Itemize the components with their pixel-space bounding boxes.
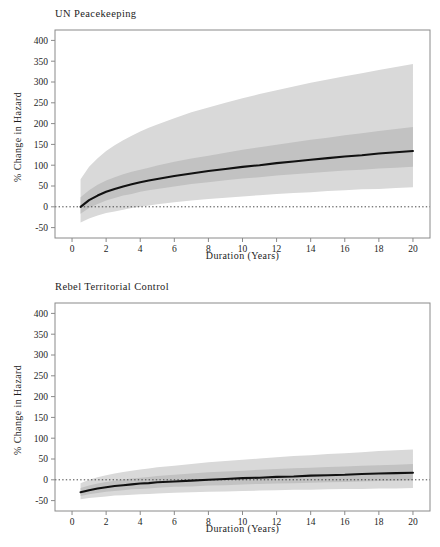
x-tick-label: 18 [374,517,384,527]
y-tick-label: 350 [34,57,49,67]
x-tick-label: 4 [138,244,143,254]
x-tick-label: 20 [408,517,418,527]
x-tick-label: 18 [374,244,384,254]
x-tick-label: 12 [272,517,282,527]
y-tick-label: 200 [34,119,49,129]
y-tick-label: -50 [35,223,48,233]
plot-area: 02468101214161820-5005010015020025030035… [0,0,440,272]
figure-container: UN Peacekeeping% Change in HazardDuratio… [0,0,440,547]
x-tick-label: 14 [306,517,316,527]
y-tick-label: 350 [34,330,49,340]
chart-panel: UN Peacekeeping% Change in HazardDuratio… [0,0,440,272]
y-tick-label: 200 [34,392,49,402]
x-tick-label: 2 [104,244,109,254]
y-tick-label: 250 [34,98,49,108]
x-tick-label: 14 [306,244,316,254]
x-tick-label: 12 [272,244,282,254]
y-tick-label: 300 [34,350,49,360]
plot-area: 02468101214161820-5005010015020025030035… [0,272,440,547]
chart-panel: Rebel Territorial Control% Change in Haz… [0,272,440,547]
y-tick-label: 50 [39,181,49,191]
x-tick-label: 2 [104,517,109,527]
x-tick-label: 0 [70,244,75,254]
y-tick-label: 100 [34,434,49,444]
x-tick-label: 4 [138,517,143,527]
x-tick-label: 8 [206,517,211,527]
y-tick-label: 50 [39,454,49,464]
y-tick-label: 400 [34,309,49,319]
y-tick-label: 100 [34,161,49,171]
y-tick-label: 400 [34,36,49,46]
y-tick-label: 250 [34,371,49,381]
x-tick-label: 8 [206,244,211,254]
y-tick-label: 150 [34,413,49,423]
x-tick-label: 0 [70,517,75,527]
y-tick-label: -50 [35,496,48,506]
x-tick-label: 16 [340,244,350,254]
x-tick-label: 6 [172,517,177,527]
y-tick-label: 0 [43,475,48,485]
y-tick-label: 150 [34,140,49,150]
x-tick-label: 10 [238,244,248,254]
y-tick-label: 300 [34,77,49,87]
x-tick-label: 10 [238,517,248,527]
x-tick-label: 20 [408,244,418,254]
x-tick-label: 16 [340,517,350,527]
y-tick-label: 0 [43,202,48,212]
x-tick-label: 6 [172,244,177,254]
